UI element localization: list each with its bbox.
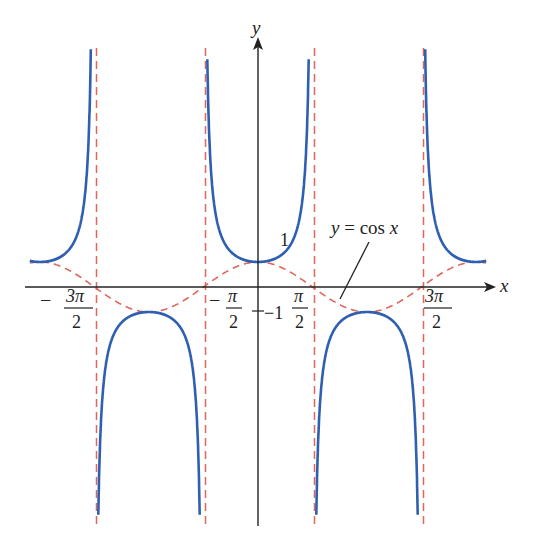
plot-area: x y 1 −1 y = cos x − 3π 2 − π 2 π 2 3π 2 [0, 0, 534, 547]
sec-branch [425, 49, 486, 262]
y-axis-label: y [250, 17, 261, 38]
svg-text:2: 2 [432, 312, 441, 332]
svg-text:3π: 3π [424, 286, 444, 306]
svg-text:2: 2 [72, 312, 81, 332]
svg-text:2: 2 [229, 312, 238, 332]
y-tick-label-one: 1 [280, 230, 289, 250]
svg-text:π: π [228, 286, 238, 306]
cos-annotation: y = cos x [329, 217, 399, 238]
x-tick-pi-2: π 2 [292, 286, 308, 332]
sec-branch [98, 312, 199, 515]
sec-branch [30, 49, 91, 262]
svg-text:3π: 3π [65, 286, 85, 306]
sec-branch [316, 312, 417, 515]
svg-text:−: − [209, 289, 220, 311]
x-tick-3pi-2: 3π 2 [424, 286, 452, 332]
svg-text:π: π [294, 286, 304, 306]
svg-text:−: − [40, 289, 51, 311]
x-tick-neg-3pi-2: − 3π 2 [40, 286, 93, 332]
x-tick-neg-pi-2: − π 2 [209, 286, 242, 332]
annotation-pointer [340, 242, 369, 299]
svg-text:2: 2 [295, 312, 304, 332]
y-tick-label-minus-one: −1 [264, 303, 283, 323]
secant-graph: x y 1 −1 y = cos x − 3π 2 − π 2 π 2 3π 2 [0, 0, 534, 547]
x-axis-label: x [499, 275, 509, 296]
